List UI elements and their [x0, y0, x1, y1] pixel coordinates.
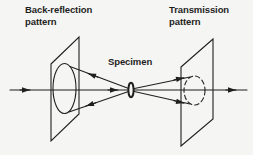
laue-diffraction-diagram: Back-reflection pattern Transmission pat…: [0, 0, 253, 155]
specimen-shape: [128, 83, 133, 97]
back-reflection-label-line1: Back-reflection: [25, 4, 92, 15]
transmission-label-line1: Transmission: [169, 4, 229, 15]
back-reflection-label-line2: pattern: [25, 16, 57, 27]
back-diffracted-ray-lower: [69, 91, 130, 112]
specimen-label: Specimen: [108, 56, 152, 68]
transmission-film: [181, 39, 213, 146]
transmission-label: Transmission pattern: [169, 4, 229, 28]
back-ray-lower-arrow: [86, 103, 96, 106]
back-reflection-film: [51, 37, 79, 141]
back-reflection-label: Back-reflection pattern: [25, 4, 92, 28]
transmission-label-line2: pattern: [169, 16, 201, 27]
back-reflection-ring: [53, 64, 76, 114]
back-ray-upper-arrow: [88, 74, 98, 78]
